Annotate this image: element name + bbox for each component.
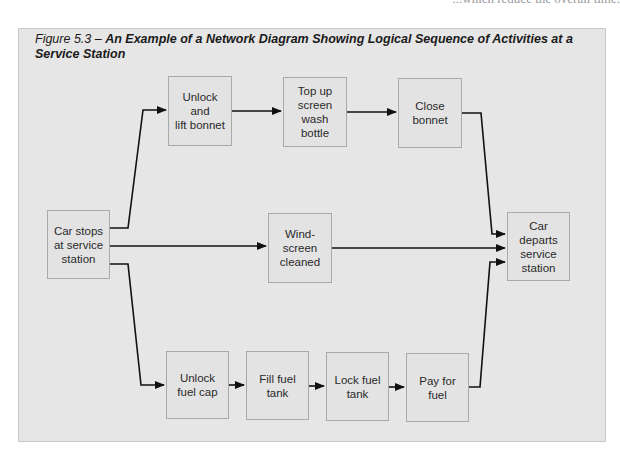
node-windscreen-cleaned: Wind- screen cleaned (268, 213, 332, 283)
edge-car-stops-to-unlock-fuel-cap (110, 264, 164, 385)
node-unlock-lift-bonnet: Unlock and lift bonnet (168, 76, 232, 146)
node-pay-for-fuel: Pay for fuel (406, 353, 469, 422)
node-unlock-fuel-cap: Unlock fuel cap (166, 351, 229, 419)
node-lock-fuel-tank: Lock fuel tank (326, 352, 389, 421)
node-close-bonnet: Close bonnet (398, 78, 462, 148)
edge-car-stops-to-unlock-lift-bonnet (110, 110, 166, 228)
node-car-stops: Car stops at service station (47, 210, 110, 279)
edge-close-bonnet-to-car-departs (462, 113, 505, 234)
node-top-up-wash: Top up screen wash bottle (283, 77, 347, 147)
edge-pay-for-fuel-to-car-departs (469, 262, 505, 387)
node-fill-fuel-tank: Fill fuel tank (246, 351, 309, 420)
node-car-departs: Car departs service station (507, 212, 570, 281)
